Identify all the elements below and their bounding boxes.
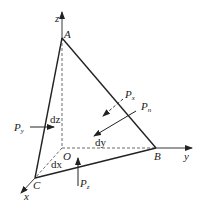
point-b-label: B [154,150,161,162]
dy-label: dy [95,136,107,148]
visible-edges [35,38,156,178]
force-pn-arrow [94,111,136,136]
x-axis-label: x [23,190,29,202]
force-py-label: Py [13,121,25,135]
force-px-arrow [103,99,123,116]
force-px-label: Px [124,88,136,102]
dx-label: dx [51,158,63,170]
point-a-label: A [63,28,71,40]
hidden-edges [35,38,156,178]
dz-label: dz [50,113,61,125]
force-pn-label: Pn [140,100,152,114]
tetrahedron-diagram: z y x A B C O dz dy dx Py Px Pn Pz [0,0,205,211]
edge-AC [35,38,62,178]
z-axis-label: z [54,12,60,24]
y-axis-label: y [183,150,189,162]
point-c-label: C [33,179,41,191]
point-o-label: O [63,150,71,162]
edge-AB [62,38,156,148]
force-pz-label: Pz [79,177,90,191]
